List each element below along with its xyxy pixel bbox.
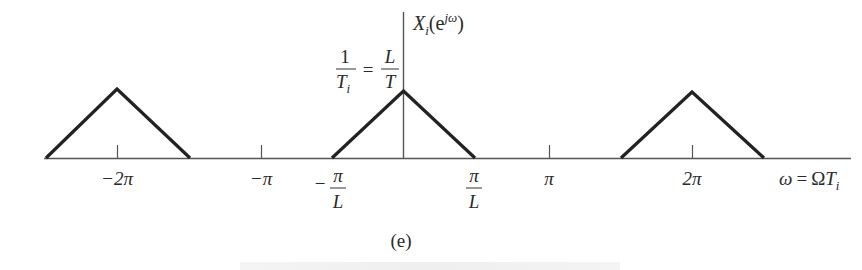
spectrum-figure: Xi(ejω) 1 Ti = L T −2π −π π 2π − π L π L… [0,0,862,270]
truncated-caption [240,262,620,270]
y-axis-label: Xi(ejω) [412,10,464,38]
x-axis-label: ω=ΩTi [779,168,840,193]
tick-label-neg-2pi: −2π [101,168,133,189]
tick-label-pi-over-L: π L [466,165,482,212]
peak-label: 1 Ti = L T [336,46,399,96]
svg-text:L: L [384,46,396,67]
panel-label: (e) [390,230,411,252]
svg-text:π: π [469,165,479,186]
svg-text:1: 1 [340,46,350,67]
svg-text:L: L [468,191,480,212]
tick-label-pi: π [544,168,554,189]
svg-text:Ti: Ti [336,71,351,96]
svg-text:L: L [332,191,344,212]
tick-label-neg-pi-over-L: − π L [315,165,346,212]
tick-label-2pi: 2π [682,168,702,189]
svg-text:T: T [385,71,397,92]
svg-text:−: − [315,173,326,194]
svg-text:=: = [363,59,374,80]
svg-text:π: π [333,165,343,186]
tick-label-neg-pi: −π [250,168,273,189]
